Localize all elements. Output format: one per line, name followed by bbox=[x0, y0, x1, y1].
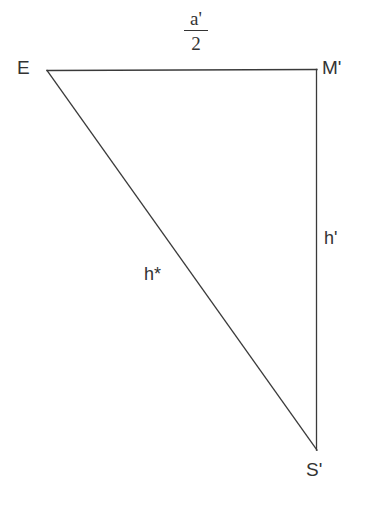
fraction-denominator: 2 bbox=[189, 33, 203, 53]
side-label-h-prime: h' bbox=[324, 229, 337, 247]
vertex-label-s-prime: S' bbox=[306, 460, 322, 479]
vertex-label-e: E bbox=[17, 58, 30, 77]
triangle-drawing bbox=[0, 0, 368, 508]
vertex-label-m-prime: M' bbox=[322, 58, 341, 77]
diagram-canvas: E M' S' h' h* a' 2 bbox=[0, 0, 368, 508]
side-label-a-over-two: a' 2 bbox=[184, 9, 208, 53]
fraction-numerator: a' bbox=[188, 9, 204, 29]
edge-hypotenuse-h-star bbox=[47, 71, 317, 451]
fraction-bar bbox=[184, 30, 208, 31]
side-label-h-star: h* bbox=[144, 265, 161, 283]
edge-top-a-half bbox=[47, 70, 317, 71]
